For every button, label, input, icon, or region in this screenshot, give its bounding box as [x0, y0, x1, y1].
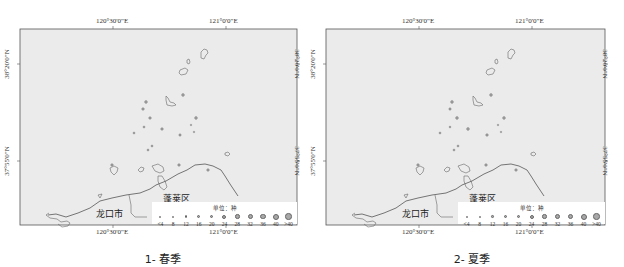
point-symbol-icon: [581, 214, 587, 220]
legend-item: <4: [154, 213, 167, 227]
panel-caption: 1- 春季: [103, 250, 223, 266]
lat-tick-left-1: 38°20'0"N: [309, 49, 317, 78]
lat-tick-right-1: 38°20'0"N: [293, 49, 301, 78]
point-symbol-icon: [530, 215, 534, 219]
legend-item: 8: [473, 213, 486, 227]
legend: 单位：种 <4 8 12 16 20 24 28 32 36 40 >40: [152, 202, 297, 224]
legend-item: 12: [180, 213, 193, 227]
lat-tick-right-2: 37°55'0"N: [601, 146, 609, 175]
lat-tick-right-1: 38°20'0"N: [601, 49, 609, 78]
point-symbol-icon: [285, 213, 292, 220]
legend-title: 单位：种: [458, 204, 605, 212]
point-symbol-icon: [491, 215, 494, 218]
lat-tick-left-2: 37°55'0"N: [3, 146, 11, 175]
lon-tick-top-1: 120°30'0"E: [96, 17, 128, 25]
lon-tick-top-1: 120°30'0"E: [402, 17, 434, 25]
legend-title: 单位：种: [152, 204, 297, 212]
legend-item: 12: [486, 213, 499, 227]
legend-item: 24: [218, 213, 231, 227]
legend-item: >40: [282, 213, 295, 227]
point-symbol-icon: [504, 215, 507, 218]
map-frame: [20, 29, 297, 225]
lon-tick-bottom-2: 121°0'0"E: [515, 228, 544, 236]
map-frame: [326, 29, 605, 225]
place-label-city: 龙口市: [96, 207, 123, 220]
point-symbol-icon: [210, 215, 214, 219]
point-symbol-icon: [517, 215, 521, 219]
map-panel-summer: 120°30'0"E 121°0'0"E 120°30'0"E 121°0'0"…: [312, 0, 624, 267]
lon-tick-bottom-1: 120°30'0"E: [402, 228, 434, 236]
point-symbol-icon: [159, 216, 161, 218]
panel-caption: 2- 夏季: [412, 250, 532, 266]
lat-tick-left-1: 38°20'0"N: [3, 49, 11, 78]
lon-tick-top-2: 121°0'0"E: [515, 17, 544, 25]
legend-item: 36: [257, 213, 270, 227]
legend-item: 16: [499, 213, 512, 227]
point-symbol-icon: [235, 214, 240, 219]
lon-tick-bottom-1: 120°30'0"E: [96, 228, 128, 236]
legend-item: 20: [205, 213, 218, 227]
legend-item: 8: [167, 213, 180, 227]
legend-item: 20: [512, 213, 525, 227]
point-symbol-icon: [479, 216, 481, 218]
legend-items: <4 8 12 16 20 24 28 32 36 40 >40: [460, 213, 603, 227]
legend-item: 24: [525, 213, 538, 227]
legend-item: 32: [551, 213, 564, 227]
legend: 单位：种 <4 8 12 16 20 24 28 32 36 40 >40: [458, 202, 605, 224]
legend-items: <4 8 12 16 20 24 28 32 36 40 >40: [154, 213, 295, 227]
legend-item: >40: [590, 213, 603, 227]
lat-tick-right-2: 37°55'0"N: [293, 146, 301, 175]
legend-item: 36: [564, 213, 577, 227]
lat-tick-left-2: 37°55'0"N: [309, 146, 317, 175]
point-symbol-icon: [222, 215, 226, 219]
point-symbol-icon: [260, 214, 266, 220]
legend-item: <4: [460, 213, 473, 227]
point-symbol-icon: [555, 214, 560, 219]
legend-item: 32: [244, 213, 257, 227]
legend-item: 40: [577, 213, 590, 227]
legend-item: 28: [231, 213, 244, 227]
legend-item: 16: [192, 213, 205, 227]
point-symbol-icon: [273, 214, 279, 220]
point-symbol-icon: [542, 214, 547, 219]
point-symbol-icon: [568, 214, 574, 220]
lon-tick-bottom-2: 121°0'0"E: [209, 228, 238, 236]
point-symbol-icon: [172, 216, 174, 218]
map-panel-spring: 120°30'0"E 121°0'0"E 120°30'0"E 121°0'0"…: [0, 0, 312, 267]
point-symbol-icon: [248, 214, 253, 219]
point-symbol-icon: [466, 216, 468, 218]
lon-tick-top-2: 121°0'0"E: [209, 17, 238, 25]
point-symbol-icon: [197, 215, 200, 218]
point-symbol-icon: [593, 213, 600, 220]
place-label-city: 龙口市: [402, 207, 429, 220]
point-symbol-icon: [185, 215, 188, 218]
legend-item: 28: [538, 213, 551, 227]
legend-item: 40: [269, 213, 282, 227]
